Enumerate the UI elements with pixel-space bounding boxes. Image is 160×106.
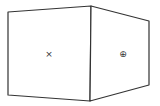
box-diagram: × ⊕ [0,0,160,106]
cross-marker-icon: × [45,49,53,59]
circled-plus-marker-icon: ⊕ [119,49,127,59]
